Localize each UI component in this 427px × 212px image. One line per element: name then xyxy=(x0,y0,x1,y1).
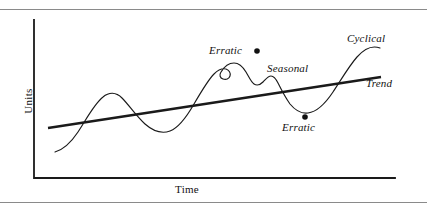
annotation-trend: Trend xyxy=(366,77,392,89)
x-axis-label: Time xyxy=(175,183,199,195)
erratic-points xyxy=(254,48,308,120)
annotation-erratic-lower: Erratic xyxy=(282,121,315,133)
erratic-upper-point xyxy=(254,48,260,54)
annotation-erratic-upper: Erratic xyxy=(209,44,242,56)
erratic-lower-point xyxy=(302,114,308,120)
cyclical-seasonal-curve xyxy=(55,47,380,152)
y-axis-label: Units xyxy=(22,71,34,131)
annotation-cyclical: Cyclical xyxy=(347,32,385,44)
series-cyclical-seasonal xyxy=(55,47,380,152)
annotation-seasonal: Seasonal xyxy=(267,62,308,74)
chart-figure: Units Time Erratic Seasonal Erratic Cycl… xyxy=(0,0,427,212)
